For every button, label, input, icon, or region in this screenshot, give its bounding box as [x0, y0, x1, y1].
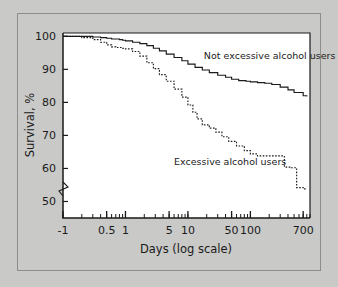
- x-tick-label: 50: [225, 224, 239, 237]
- y-axis-title: Survival, %: [23, 93, 37, 158]
- annotation-excessive: Excessive alcohol users: [174, 156, 286, 167]
- y-tick-label: 70: [42, 129, 56, 142]
- x-tick-label: -1: [58, 224, 69, 237]
- x-tick-label: 5: [166, 224, 173, 237]
- figure-container: 5060708090100 -10.5151050100700 Not exce…: [0, 0, 338, 287]
- y-tick-label: 50: [42, 195, 56, 208]
- x-tick-label: 0.5: [98, 224, 116, 237]
- x-tick-label: 1: [122, 224, 129, 237]
- x-tick-label: 100: [240, 224, 261, 237]
- x-tick-label: 700: [293, 224, 314, 237]
- survival-chart: 5060708090100 -10.5151050100700 Not exce…: [0, 0, 338, 287]
- annotation-not-excessive: Not excessive alcohol users: [204, 50, 336, 61]
- y-tick-label: 80: [42, 96, 56, 109]
- x-axis-title: Days (log scale): [140, 242, 232, 256]
- y-tick-label: 90: [42, 63, 56, 76]
- y-tick-label: 100: [35, 30, 56, 43]
- x-tick-label: 10: [181, 224, 195, 237]
- y-tick-label: 60: [42, 162, 56, 175]
